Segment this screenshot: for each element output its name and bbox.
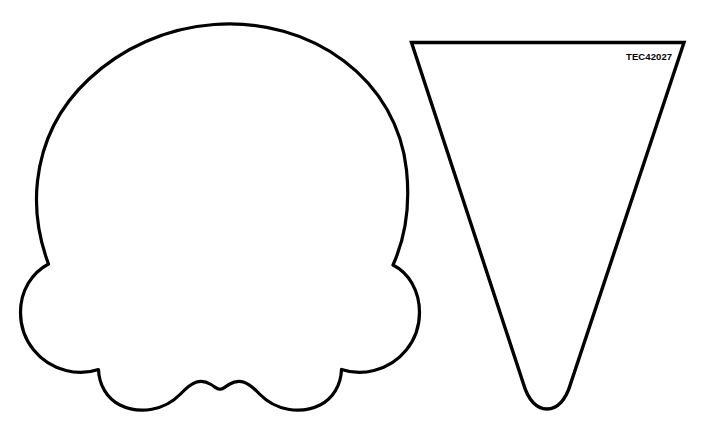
page-canvas: ·· ·· ·· ·· ··· TEC42027 bbox=[0, 0, 706, 439]
template-artboard bbox=[0, 0, 706, 439]
cone-outline bbox=[412, 43, 685, 410]
cone-product-code-label: TEC42027 bbox=[626, 51, 672, 62]
scoop-outline bbox=[21, 24, 420, 410]
